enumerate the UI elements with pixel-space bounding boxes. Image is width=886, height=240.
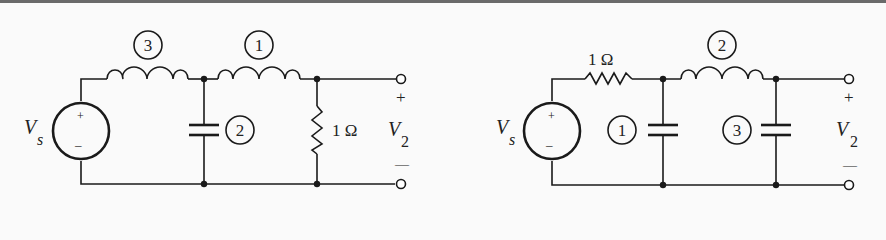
wire-source-top xyxy=(81,79,107,101)
node-dot xyxy=(660,182,666,188)
inductor-icon xyxy=(218,67,300,79)
output-terminal-positive xyxy=(845,75,854,84)
inductor-icon xyxy=(681,67,763,79)
resistor-value: 1 Ω xyxy=(588,50,613,69)
output-plus: + xyxy=(396,88,406,107)
node-dot xyxy=(314,181,320,187)
source-subscript: s xyxy=(509,131,515,148)
tag-text: 3 xyxy=(733,121,742,140)
output-terminal-positive xyxy=(397,75,406,84)
wire-source-top xyxy=(552,79,585,101)
voltage-source-icon: + – xyxy=(53,103,109,159)
inductor-icon xyxy=(107,67,188,79)
output-minus: — xyxy=(394,157,410,172)
tag-text: 1 xyxy=(255,36,264,55)
output-subscript: 2 xyxy=(850,133,858,150)
output-label: V xyxy=(836,118,851,140)
output-subscript: 2 xyxy=(401,133,409,150)
circuit-right: + – V s 1 Ω 2 1 3 + xyxy=(496,31,858,190)
source-plus: + xyxy=(77,109,84,123)
source-plus: + xyxy=(548,109,555,123)
capacitor-icon xyxy=(648,125,678,135)
source-minus: – xyxy=(74,137,82,152)
output-minus: — xyxy=(842,158,858,173)
resistor-icon xyxy=(585,73,632,84)
node-dot xyxy=(201,76,207,82)
output-terminal-negative xyxy=(845,181,854,190)
tag-text: 1 xyxy=(618,121,627,140)
wire-ground xyxy=(552,161,848,185)
resistor-value: 1 Ω xyxy=(332,121,357,140)
node-dot xyxy=(773,182,779,188)
capacitor-icon xyxy=(189,125,219,135)
circuit-left: + – V s 3 1 2 1 Ω + — V 2 xyxy=(24,31,410,189)
voltage-source-icon: + – xyxy=(524,103,580,159)
source-subscript: s xyxy=(37,131,43,148)
output-terminal-negative xyxy=(397,180,406,189)
node-dot xyxy=(201,181,207,187)
node-dot xyxy=(773,76,779,82)
capacitor-icon xyxy=(761,125,791,135)
wire-ground xyxy=(81,161,395,184)
output-plus: + xyxy=(844,88,854,107)
source-minus: – xyxy=(545,137,553,152)
tag-text: 2 xyxy=(718,36,727,55)
node-dot xyxy=(314,76,320,82)
node-dot xyxy=(660,76,666,82)
tag-text: 3 xyxy=(144,36,153,55)
resistor-icon xyxy=(312,106,322,154)
tag-text: 2 xyxy=(236,121,245,140)
